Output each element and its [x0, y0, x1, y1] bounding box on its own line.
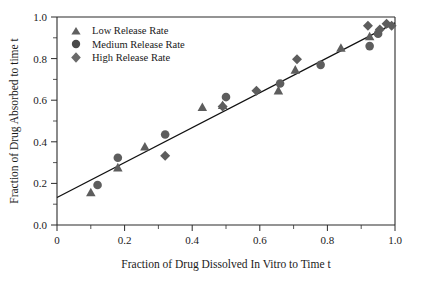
- diamond-marker: [363, 21, 373, 31]
- y-tick-label: 0.6: [33, 94, 47, 106]
- diamond-marker: [160, 151, 170, 161]
- x-tick-label: 1.0: [388, 234, 402, 246]
- circle-marker: [222, 93, 231, 102]
- triangle-marker: [86, 188, 96, 197]
- x-tick-label: 0.6: [253, 234, 267, 246]
- diamond-marker: [251, 86, 261, 96]
- y-tick-label: 0.8: [33, 53, 47, 65]
- y-axis-tick-labels: 0.0 0.2 0.4 0.6 0.8 1.0: [33, 11, 47, 231]
- legend-item-label: High Release Rate: [92, 52, 170, 63]
- circle-marker: [93, 181, 102, 190]
- x-axis-minor-ticks: [91, 225, 361, 229]
- circle-marker: [72, 40, 80, 48]
- circle-marker: [276, 79, 285, 88]
- legend-item-label: Medium Release Rate: [92, 39, 185, 50]
- diamond-marker: [292, 54, 302, 64]
- scatter-plot-svg: 0 0.2 0.4 0.6 0.8 1.0 0.0 0.2 0.4 0.6 0.…: [0, 0, 421, 284]
- x-axis-tick-labels: 0 0.2 0.4 0.6 0.8 1.0: [54, 234, 402, 246]
- x-tick-label: 0: [54, 234, 60, 246]
- y-tick-label: 0.0: [33, 219, 47, 231]
- y-tick-label: 1.0: [33, 11, 47, 23]
- y-tick-label: 0.2: [33, 177, 47, 189]
- chart-figure: 0 0.2 0.4 0.6 0.8 1.0 0.0 0.2 0.4 0.6 0.…: [0, 0, 421, 284]
- x-tick-label: 0.4: [185, 234, 199, 246]
- x-axis-label: Fraction of Drug Dissolved In Vitro to T…: [121, 258, 331, 271]
- x-tick-label: 0.8: [321, 234, 335, 246]
- legend: Low Release Rate Medium Release Rate Hig…: [71, 25, 185, 63]
- circle-marker: [316, 61, 325, 70]
- y-axis-minor-ticks: [53, 38, 57, 204]
- y-axis-label: Fraction of Drug Absorbed to time t: [8, 37, 21, 203]
- triangle-marker: [198, 102, 208, 111]
- triangle-marker: [71, 27, 80, 35]
- triangle-marker: [365, 32, 375, 41]
- triangle-marker: [336, 43, 346, 52]
- diamond-marker: [71, 52, 81, 62]
- circle-marker: [114, 154, 123, 163]
- circle-marker: [161, 130, 170, 139]
- x-tick-label: 0.2: [118, 234, 132, 246]
- triangle-marker: [291, 65, 301, 74]
- triangle-marker: [140, 142, 150, 151]
- circle-marker: [365, 42, 374, 51]
- legend-item-label: Low Release Rate: [92, 25, 169, 36]
- y-tick-label: 0.4: [33, 136, 47, 148]
